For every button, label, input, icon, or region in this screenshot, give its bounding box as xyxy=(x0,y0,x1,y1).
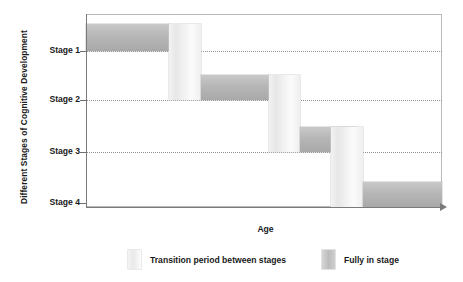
legend-swatch-transition-icon xyxy=(128,250,141,269)
legend-label-fully-in-stage: Fully in stage xyxy=(344,255,399,265)
y-axis-line xyxy=(86,14,87,208)
x-axis-title-text: Age xyxy=(257,224,273,234)
bar-fully-in-stage-2 xyxy=(201,75,269,100)
x-axis-line xyxy=(86,207,443,208)
x-axis-title: Age xyxy=(0,224,463,234)
bar-fully-in-stage-1 xyxy=(86,24,169,51)
chart-legend: Transition period between stages Fully i… xyxy=(0,250,463,276)
bar-transition-1-to-2 xyxy=(169,24,201,100)
legend-item-fully-in-stage: Fully in stage xyxy=(322,250,399,269)
legend-item-transition: Transition period between stages xyxy=(128,250,286,269)
bar-fully-in-stage-4 xyxy=(363,182,442,207)
bar-transition-2-to-3 xyxy=(269,75,300,152)
bar-transition-3-to-4 xyxy=(331,127,363,207)
cognitive-development-step-chart: Different Stages of Cognitive Developmen… xyxy=(0,0,463,282)
step-series xyxy=(0,0,463,282)
x-axis-arrow-icon xyxy=(440,203,447,211)
legend-label-transition: Transition period between stages xyxy=(150,255,286,265)
legend-swatch-fully-in-stage-icon xyxy=(322,250,335,269)
